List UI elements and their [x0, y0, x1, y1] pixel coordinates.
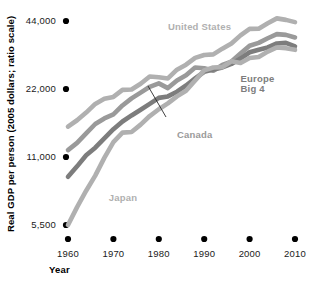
y-tick-dot [63, 154, 69, 160]
x-tick-label: 2000 [239, 248, 261, 259]
x-axis-title: Year [49, 264, 70, 275]
series-annotation-japan: Japan [109, 192, 137, 203]
x-tick-label: 2010 [284, 248, 306, 259]
x-tick-label-group: 196019701980199020002010 [57, 248, 306, 259]
y-tick-label: 44,000 [26, 15, 56, 26]
x-tick-dot [65, 236, 71, 242]
y-tick-label: 11,000 [26, 151, 56, 162]
y-axis-title: Real GDP per person (2005 dollars; ratio… [5, 16, 16, 232]
x-tick-dot-group [65, 236, 298, 242]
series-annotation-canada: Canada [177, 129, 213, 140]
chart-canvas: Real GDP per person (2005 dollars; ratio… [0, 0, 320, 284]
x-tick-dot [201, 236, 207, 242]
y-tick-label: 5,500 [31, 219, 56, 230]
y-tick-label: 22,000 [26, 83, 56, 94]
x-tick-dot [247, 236, 253, 242]
y-tick-label-group: 5,50011,00022,00044,000 [26, 15, 56, 230]
series-annotation-united-states: United States [168, 21, 231, 32]
x-tick-dot [110, 236, 116, 242]
y-axis-title-group: Real GDP per person (2005 dollars; ratio… [5, 16, 16, 232]
y-tick-dot [63, 18, 69, 24]
gdp-per-person-line-chart: Real GDP per person (2005 dollars; ratio… [0, 0, 320, 284]
x-tick-label: 1970 [102, 248, 124, 259]
series-line-europe-big-4 [68, 43, 295, 177]
x-tick-label: 1990 [193, 248, 215, 259]
y-tick-dot-group [63, 18, 69, 228]
x-tick-label: 1980 [148, 248, 170, 259]
x-tick-label: 1960 [57, 248, 79, 259]
x-tick-dot [292, 236, 298, 242]
y-tick-dot [63, 86, 69, 92]
x-tick-dot [156, 236, 162, 242]
series-annotation-europe-big-4b: Big 4 [241, 83, 266, 94]
series-line-group [68, 18, 295, 225]
